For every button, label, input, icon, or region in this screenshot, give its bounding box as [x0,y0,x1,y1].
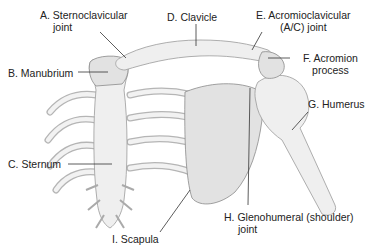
clavicle [116,40,273,70]
label-humerus: G. Humerus [308,98,365,110]
label-line: (A/C) joint [256,21,351,33]
label-line: process [303,64,358,76]
label-line: A. Sternoclavicular [40,9,128,21]
label-acromion-process: F. Acromion process [303,52,358,76]
acromion [259,52,285,79]
label-acromioclavicular-joint: E. Acromioclavicular (A/C) joint [256,9,351,33]
label-line: F. Acromion [303,52,358,64]
label-line: H. Glenohumeral (shoulder) [224,211,354,223]
label-line: E. Acromioclavicular [256,9,351,21]
label-glenohumeral-joint: H. Glenohumeral (shoulder) joint [224,211,354,235]
label-sternoclavicular-joint: A. Sternoclavicular joint [40,9,128,33]
label-scapula: I. Scapula [112,233,159,245]
shoulder-anatomy-diagram: A. Sternoclavicular joint B. Manubrium C… [0,0,375,251]
label-sternum: C. Sternum [8,158,61,170]
humerus [255,75,336,215]
label-clavicle: D. Clavicle [167,11,217,23]
label-manubrium: B. Manubrium [8,67,73,79]
label-line: joint [40,21,128,33]
scapula [185,84,262,204]
label-line: joint [224,223,354,235]
